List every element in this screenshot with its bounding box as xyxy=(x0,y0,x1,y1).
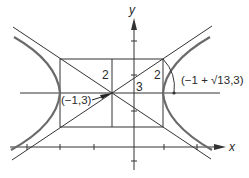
label-left-2: 2 xyxy=(102,68,109,82)
label-right-2: 2 xyxy=(154,68,161,82)
vertex-point-label: (−1 + √13,3) xyxy=(181,74,244,86)
hyperbola-figure: x y 2 3 2 (−1,3) (−1 + √13,3) xyxy=(0,0,249,178)
x-axis-label: x xyxy=(228,140,236,154)
label-3: 3 xyxy=(136,80,143,94)
center-arrowhead xyxy=(100,93,112,99)
y-axis-label: y xyxy=(128,3,136,17)
focus-point xyxy=(172,91,175,94)
center-point-label: (−1,3) xyxy=(61,94,92,106)
